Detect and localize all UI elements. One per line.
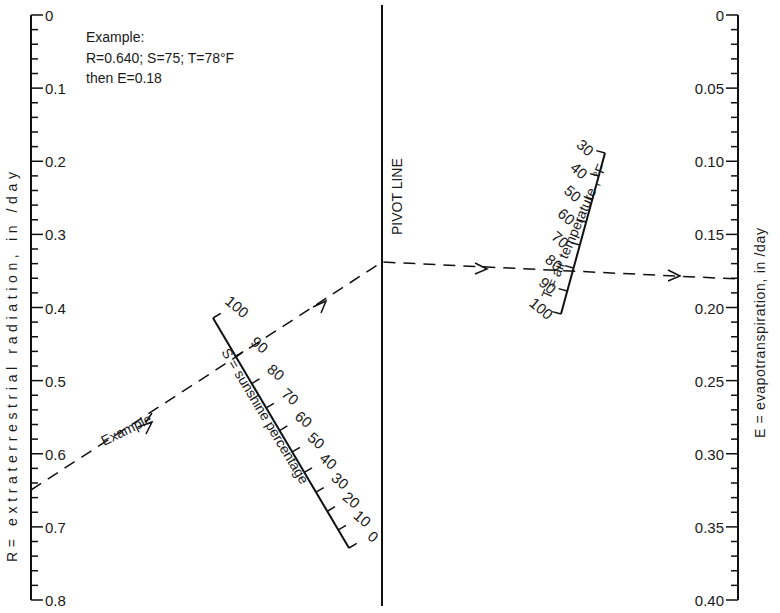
e-tick-label: 0.40 [695,592,724,609]
r-tick-label: 0.8 [45,592,66,609]
e-tick-label: 0.35 [695,519,724,536]
tick [338,525,346,530]
example-path: Example [31,262,738,490]
example-inputs: R=0.640; S=75; T=78°F [86,50,234,66]
e-tick-label: 0.20 [695,300,724,317]
s-tick-label: 50 [305,429,329,453]
r-tick-label: 0.6 [45,446,66,463]
s-tick-label: 0 [365,527,382,545]
tick [316,488,324,493]
r-axis-label: R= extraterrestrial radiation, in /day [4,172,20,562]
s-scale: 1009080706050403020100 [213,292,382,548]
r-tick-label: 0.4 [45,300,66,317]
example-path-label: Example [98,410,154,448]
r-tick-label: 0.5 [45,373,66,390]
s-tick-label: 60 [292,407,316,431]
example-heading: Example: [86,29,144,45]
e-axis-label: E = evapotranspiration, in /day [752,228,768,438]
e-tick-label: 0.25 [695,373,724,390]
r-scale: 00.10.20.30.40.50.60.70.8 [31,7,66,609]
s-tick-label: 80 [264,360,288,384]
e-scale: 00.050.100.150.200.250.300.350.40 [695,7,738,609]
tick [559,289,568,291]
s-tick-label: 10 [351,507,375,531]
t-tick-label: 30 [574,136,598,160]
tick [596,151,605,153]
e-tick-label: 0 [716,7,724,24]
r-tick-label: 0.7 [45,519,66,536]
r-tick-label: 0.1 [45,80,66,97]
arrow-icon [475,263,487,274]
tick [349,543,357,548]
s-tick-label: 70 [279,385,303,409]
e-tick-label: 0.15 [695,226,724,243]
e-tick-label: 0.10 [695,153,724,170]
nomograph: 00.10.20.30.40.50.60.70.8 00.050.100.150… [0,0,780,613]
e-tick-label: 0.30 [695,446,724,463]
tick [327,507,335,512]
example-result: then E=0.18 [86,70,162,86]
e-tick-label: 0.05 [695,80,724,97]
s-tick-label: 100 [222,292,252,321]
r-tick-label: 0 [45,7,53,24]
pivot-line-label: PIVOT LINE [389,158,405,235]
r-tick-label: 0.3 [45,226,66,243]
tick [213,313,221,318]
s-tick-label: 40 [317,449,341,473]
r-tick-label: 0.2 [45,153,66,170]
